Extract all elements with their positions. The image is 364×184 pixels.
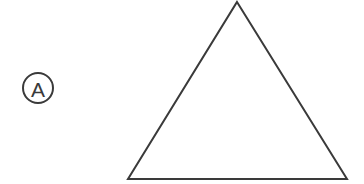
- figure-illustration: A: [0, 0, 364, 184]
- triangle-shape: [128, 2, 347, 179]
- label-letter: A: [31, 78, 45, 101]
- figure-canvas: A: [0, 0, 364, 184]
- figure-label-badge: A: [23, 73, 53, 103]
